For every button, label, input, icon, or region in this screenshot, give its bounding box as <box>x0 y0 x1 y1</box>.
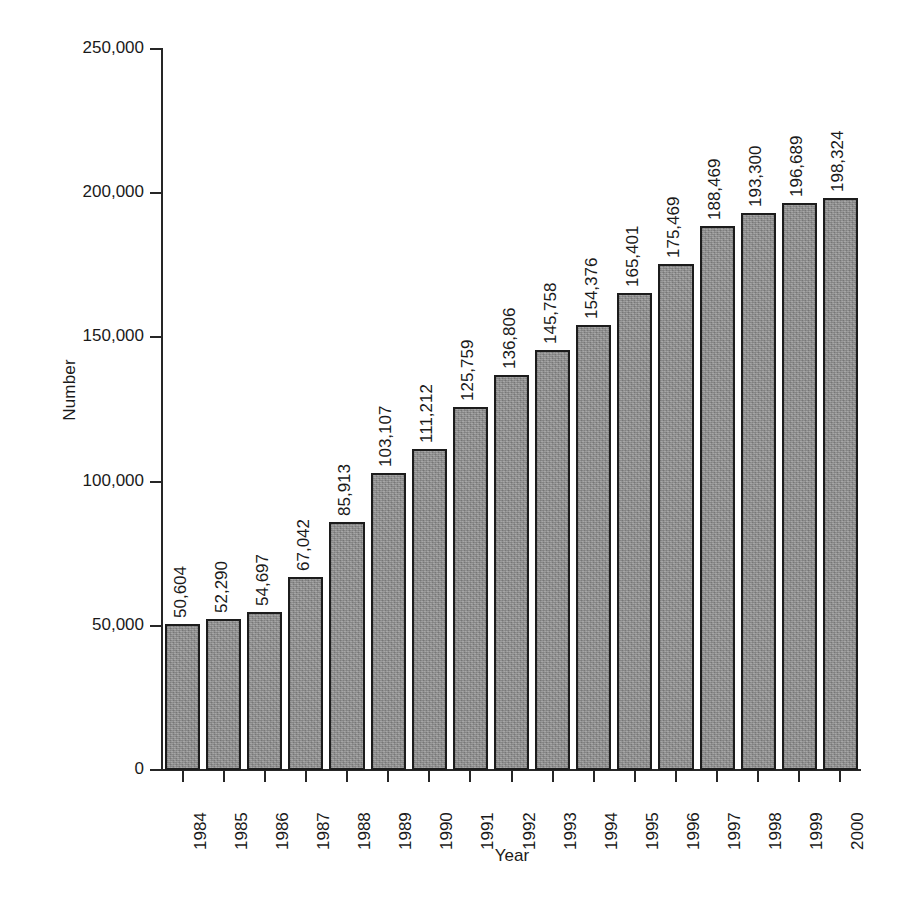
x-axis-tick-label: 1985 <box>214 788 234 850</box>
bar <box>741 213 776 770</box>
bar-value-label: 193,300 <box>747 121 769 207</box>
y-axis-tick <box>150 336 161 338</box>
y-axis-tick <box>150 48 161 50</box>
x-axis-tick-label: 1990 <box>419 788 439 850</box>
y-axis-tick-label-wrap: 150,000 <box>36 327 144 345</box>
x-axis-tick-label: 2000 <box>830 788 850 850</box>
x-axis-tick <box>264 771 266 782</box>
y-axis-tick-label-wrap: 100,000 <box>36 472 144 490</box>
x-axis-tick-label: 1993 <box>543 788 563 850</box>
y-axis-tick-label-wrap: 250,000 <box>36 39 144 57</box>
bar-value-label: 50,604 <box>172 532 194 618</box>
bar-value-label: 67,042 <box>295 485 317 571</box>
x-axis-title: Year <box>162 846 862 866</box>
x-axis-tick <box>469 771 471 782</box>
bar-value-label: 85,913 <box>336 430 358 516</box>
x-axis-tick <box>593 771 595 782</box>
y-axis-tick-label-wrap: 50,000 <box>36 616 144 634</box>
bar-value-label: 52,290 <box>213 527 235 613</box>
x-axis-tick <box>798 771 800 782</box>
bar <box>206 619 241 770</box>
y-axis-tick <box>150 481 161 483</box>
y-axis-tick-label: 100,000 <box>44 472 144 489</box>
x-axis-tick <box>305 771 307 782</box>
x-axis-tick <box>552 771 554 782</box>
bar <box>412 449 447 770</box>
y-axis-line <box>161 48 163 771</box>
bar-value-label: 54,697 <box>254 520 276 606</box>
x-axis-tick-label: 1995 <box>625 788 645 850</box>
bar <box>329 522 364 770</box>
bar-value-label: 198,324 <box>829 106 851 192</box>
bar-value-label: 188,469 <box>706 134 728 220</box>
bar-value-label: 154,376 <box>583 233 605 319</box>
y-axis-tick-label-wrap: 200,000 <box>36 183 144 201</box>
bar-value-label: 175,469 <box>665 172 687 258</box>
x-axis-tick-label: 1998 <box>748 788 768 850</box>
bar-value-label: 145,758 <box>542 258 564 344</box>
bar <box>165 624 200 770</box>
x-axis-tick-label: 1994 <box>584 788 604 850</box>
x-axis-tick <box>511 771 513 782</box>
bar <box>617 293 652 770</box>
bar-value-label: 103,107 <box>377 381 399 467</box>
bar <box>823 198 858 770</box>
bar <box>700 226 735 770</box>
x-axis-tick-label: 1989 <box>378 788 398 850</box>
x-axis-tick <box>428 771 430 782</box>
bar-value-label: 111,212 <box>418 357 440 443</box>
y-axis-tick-label-wrap: 0 <box>36 760 144 778</box>
bar-value-label: 125,759 <box>459 315 481 401</box>
bar <box>453 407 488 770</box>
x-axis-tick <box>182 771 184 782</box>
x-axis-tick-label: 1987 <box>296 788 316 850</box>
y-axis-tick-label: 250,000 <box>44 39 144 56</box>
bar <box>247 612 282 770</box>
y-axis-tick <box>150 192 161 194</box>
x-axis-tick-label: 1984 <box>173 788 193 850</box>
bar-value-label: 196,689 <box>788 111 810 197</box>
x-axis-tick <box>387 771 389 782</box>
x-axis-tick <box>675 771 677 782</box>
bar <box>494 375 529 770</box>
x-axis-tick-label: 1986 <box>255 788 275 850</box>
x-axis-tick <box>716 771 718 782</box>
bar-value-label: 136,806 <box>501 283 523 369</box>
x-axis-tick <box>757 771 759 782</box>
x-axis-tick-label: 1991 <box>460 788 480 850</box>
bar <box>371 473 406 770</box>
x-axis-tick-label: 1999 <box>789 788 809 850</box>
y-axis-tick <box>150 769 161 771</box>
bar <box>535 350 570 770</box>
x-axis-tick-label: 1997 <box>707 788 727 850</box>
y-axis-tick-label: 0 <box>44 760 144 777</box>
x-axis-tick-label: 1992 <box>502 788 522 850</box>
bar <box>782 203 817 770</box>
bar <box>576 325 611 770</box>
y-axis-tick-label: 150,000 <box>44 327 144 344</box>
y-axis-tick-label: 50,000 <box>44 616 144 633</box>
x-axis-tick <box>839 771 841 782</box>
x-axis-tick-label: 1996 <box>666 788 686 850</box>
bar <box>658 264 693 770</box>
x-axis-tick <box>346 771 348 782</box>
x-axis-tick <box>223 771 225 782</box>
y-axis-tick <box>150 625 161 627</box>
y-axis-tick-label: 200,000 <box>44 183 144 200</box>
x-axis-tick-label: 1988 <box>337 788 357 850</box>
bar-value-label: 165,401 <box>624 201 646 287</box>
bar-chart: Number 050,000100,000150,000200,000250,0… <box>0 0 907 901</box>
x-axis-tick <box>634 771 636 782</box>
bar <box>288 577 323 770</box>
